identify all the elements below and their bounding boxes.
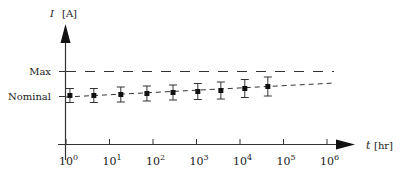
trend-line bbox=[66, 83, 335, 97]
svg-text:[hr]: [hr] bbox=[374, 140, 393, 151]
square-marker-icon bbox=[195, 89, 200, 94]
chart: I [A] t [hr] 100101102103104105106 Max N… bbox=[0, 0, 409, 177]
data-point bbox=[169, 85, 177, 100]
data-point bbox=[66, 89, 74, 103]
data-points bbox=[66, 77, 272, 103]
svg-text:I: I bbox=[49, 8, 55, 19]
square-marker-icon bbox=[118, 92, 123, 97]
x-axis-label: t [hr] bbox=[366, 139, 393, 152]
svg-text:[A]: [A] bbox=[62, 8, 77, 19]
square-marker-icon bbox=[91, 93, 96, 98]
x-axis-arrow-icon bbox=[336, 140, 355, 150]
y-axis-label: I [A] bbox=[49, 8, 77, 19]
y-axis-arrow-icon bbox=[61, 24, 71, 43]
x-tick-label: 103 bbox=[190, 153, 209, 168]
square-marker-icon bbox=[242, 86, 247, 91]
x-ticks: 100101102103104105106 bbox=[59, 139, 339, 168]
square-marker-icon bbox=[265, 84, 270, 89]
square-marker-icon bbox=[218, 88, 223, 93]
data-point bbox=[143, 86, 151, 101]
x-tick-label: 101 bbox=[103, 153, 122, 168]
square-marker-icon bbox=[67, 93, 72, 98]
x-tick-label: 104 bbox=[233, 153, 252, 168]
nominal-label: Nominal bbox=[8, 91, 51, 102]
max-label: Max bbox=[29, 66, 51, 77]
data-point bbox=[194, 84, 202, 100]
x-tick-label: 106 bbox=[320, 153, 339, 168]
square-marker-icon bbox=[171, 90, 176, 95]
svg-text:t: t bbox=[366, 139, 371, 152]
x-tick-label: 102 bbox=[146, 153, 165, 168]
x-tick-label: 105 bbox=[277, 153, 296, 168]
x-tick-label: 100 bbox=[59, 153, 78, 168]
square-marker-icon bbox=[144, 91, 149, 96]
data-point bbox=[241, 80, 249, 98]
data-point bbox=[217, 82, 225, 99]
